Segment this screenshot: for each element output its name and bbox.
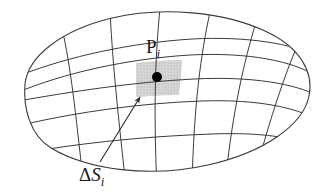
surface-diagram-figure: Pi ΔSi [0,0,334,196]
point-label-base: P [146,36,157,57]
area-element-delta: Δ [79,164,91,185]
point-label: Pi [146,37,160,61]
mesh-v-curve [110,10,126,186]
area-element-label: ΔSi [79,165,104,189]
point-label-subscript: i [157,46,161,61]
area-element-subscript: i [101,174,105,189]
mesh-v-curve [226,22,256,176]
mesh-u-curve [42,134,308,150]
leader-arrow-icon [100,97,140,162]
area-element-base: S [91,164,101,185]
mesh-v-curve [60,20,82,170]
sample-point-dot [152,72,162,82]
diagram-canvas [0,0,334,196]
